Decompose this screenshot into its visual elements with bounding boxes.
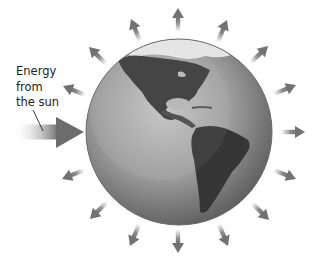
label-line-1: Energy: [16, 64, 59, 80]
outgoing-arrow-icon: [271, 79, 298, 99]
earth-globe: [86, 37, 272, 225]
outgoing-arrow-icon: [86, 198, 111, 223]
outgoing-arrow-icon: [61, 80, 88, 100]
outgoing-arrow-icon: [172, 229, 184, 253]
outgoing-arrow-icon: [213, 222, 233, 249]
incoming-energy-arrow-icon: [12, 117, 84, 148]
energy-label: Energy from the sun: [16, 64, 59, 111]
outgoing-arrow-icon: [248, 199, 273, 224]
outgoing-arrow-icon: [60, 164, 87, 184]
outgoing-arrow-icon: [85, 43, 110, 68]
outgoing-arrow-icon: [212, 18, 232, 45]
label-line-2: from: [16, 80, 59, 96]
outgoing-arrow-icon: [247, 42, 273, 67]
outgoing-arrow-icon: [271, 164, 298, 184]
diagram-graphic: [0, 0, 312, 261]
outgoing-arrow-icon: [125, 17, 145, 44]
diagram: Energy from the sun: [0, 0, 312, 261]
outgoing-arrow-icon: [281, 126, 305, 138]
outgoing-arrow-icon: [124, 222, 144, 249]
outgoing-arrow-icon: [172, 8, 184, 32]
label-line-3: the sun: [16, 95, 59, 111]
